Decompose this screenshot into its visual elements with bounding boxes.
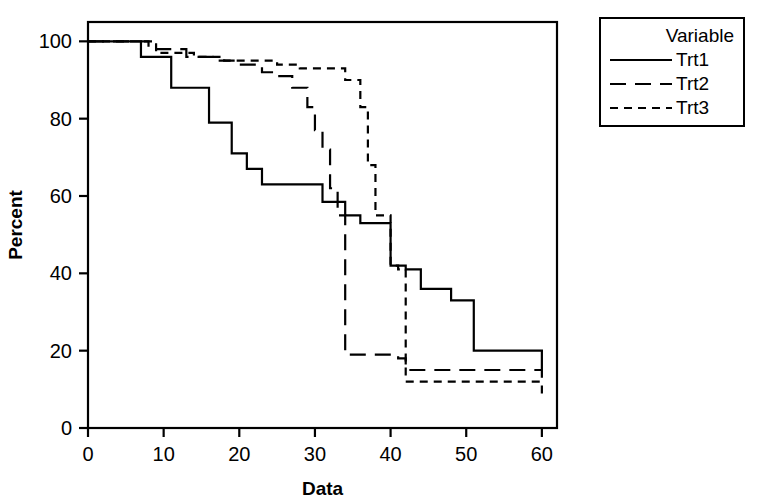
survival-chart: 0102030405060 020406080100 Data Percent … [0, 0, 757, 502]
y-tick-label: 20 [50, 340, 72, 362]
x-tick-label: 60 [531, 443, 553, 465]
legend-label-trt2[interactable]: Trt2 [676, 73, 709, 94]
x-tick-label: 40 [379, 443, 401, 465]
x-tick-label: 0 [82, 443, 93, 465]
legend-label-trt1[interactable]: Trt1 [676, 49, 709, 70]
y-tick-label: 40 [50, 262, 72, 284]
plot-frame [88, 22, 557, 428]
legend[interactable]: VariableTrt1Trt2Trt3 [600, 18, 744, 126]
y-axis-ticks: 020406080100 [39, 30, 88, 439]
x-axis-ticks: 0102030405060 [82, 428, 553, 465]
x-axis-label: Data [302, 478, 344, 499]
y-tick-label: 80 [50, 108, 72, 130]
x-tick-label: 10 [153, 443, 175, 465]
y-axis-label: Percent [5, 189, 26, 259]
x-tick-label: 20 [228, 443, 250, 465]
y-tick-label: 100 [39, 30, 72, 52]
series-line-trt1 [88, 41, 542, 377]
x-tick-label: 30 [304, 443, 326, 465]
x-tick-label: 50 [455, 443, 477, 465]
y-tick-label: 0 [61, 417, 72, 439]
y-tick-label: 60 [50, 185, 72, 207]
legend-label-trt3[interactable]: Trt3 [676, 97, 709, 118]
series-lines [88, 41, 542, 395]
chart-canvas: 0102030405060 020406080100 Data Percent … [0, 0, 757, 502]
legend-title: Variable [666, 25, 734, 46]
